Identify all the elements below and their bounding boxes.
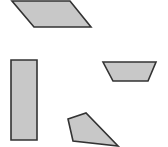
quadrilateral-shape: [68, 113, 118, 146]
rectangle-shape: [11, 60, 37, 140]
parallelogram-shape: [12, 1, 91, 27]
trapezoid-shape: [103, 62, 156, 81]
shapes-diagram: [0, 0, 168, 147]
